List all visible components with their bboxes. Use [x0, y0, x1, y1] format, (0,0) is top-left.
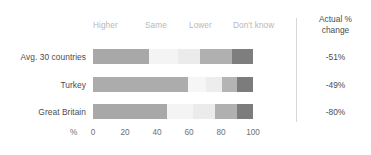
bar-segment-same [167, 104, 193, 119]
bar-row-turkey [93, 77, 253, 92]
bar-row-avg-30-countries [93, 49, 253, 64]
x-tick-80: 80 [216, 128, 225, 137]
actual-change-value-avg-30-countries: -51% [300, 52, 371, 62]
actual-change-header-line1: Actual % [300, 14, 371, 25]
bar-segment-higher [93, 104, 167, 119]
category-label-avg-30-countries: Avg. 30 countries [21, 52, 86, 62]
bar-segment-dont-know-end [237, 77, 253, 92]
category-label-great-britain: Great Britain [38, 107, 86, 117]
actual-change-value-great-britain: -80% [300, 107, 371, 117]
bar-segment-same [149, 49, 178, 64]
axis-unit-label: % [70, 128, 77, 137]
bar-segment-same [188, 77, 206, 92]
bar-row-great-britain [93, 104, 253, 119]
bar-segment-dont-know-end [237, 104, 253, 119]
x-tick-60: 60 [184, 128, 193, 137]
bar-segment-dont-know [215, 104, 237, 119]
bar-segment-dont-know-end [232, 49, 253, 64]
vertical-divider [296, 18, 297, 122]
bar-segment-higher [93, 77, 188, 92]
bar-segment-lower [206, 77, 222, 92]
chart-container: Higher Same Lower Don't know Avg. 30 cou… [0, 0, 371, 155]
bar-segment-higher [93, 49, 149, 64]
actual-change-header: Actual % change [300, 14, 371, 36]
actual-change-header-line2: change [300, 25, 371, 36]
bar-segment-lower [193, 104, 215, 119]
bar-segment-dont-know [222, 77, 237, 92]
x-tick-40: 40 [152, 128, 161, 137]
x-tick-100: 100 [246, 128, 260, 137]
bar-segment-lower [178, 49, 200, 64]
x-tick-0: 0 [91, 128, 96, 137]
actual-change-value-turkey: -49% [300, 80, 371, 90]
x-axis: 0 20 40 60 80 100 [93, 128, 253, 140]
actual-change-column: Actual % change -51% -49% -80% [300, 0, 371, 155]
x-tick-20: 20 [120, 128, 129, 137]
category-label-turkey: Turkey [60, 80, 86, 90]
bar-segment-dont-know [200, 49, 232, 64]
